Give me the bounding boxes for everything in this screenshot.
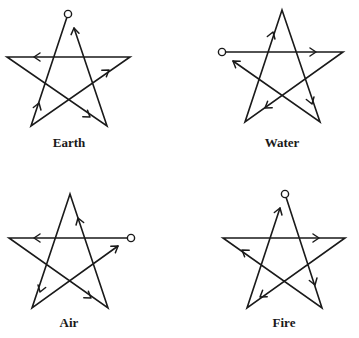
label-earth: Earth xyxy=(53,135,86,151)
label-water: Water xyxy=(265,135,300,151)
label-air: Air xyxy=(60,315,79,331)
pentagram-diagram xyxy=(0,0,359,338)
pentagram-earth xyxy=(7,10,130,126)
label-fire: Fire xyxy=(273,315,296,331)
pentagram-stroke-path xyxy=(223,194,345,308)
start-point-icon xyxy=(281,190,288,197)
pentagram-stroke-path xyxy=(222,10,343,122)
pentagram-stroke-path xyxy=(9,194,131,308)
pentagram-water xyxy=(218,10,343,122)
start-point-icon xyxy=(218,48,225,55)
pentagram-stroke-path xyxy=(7,14,130,126)
pentagram-fire xyxy=(223,190,345,308)
start-point-icon xyxy=(64,10,71,17)
pentagram-air xyxy=(9,194,135,308)
start-point-icon xyxy=(127,234,134,241)
